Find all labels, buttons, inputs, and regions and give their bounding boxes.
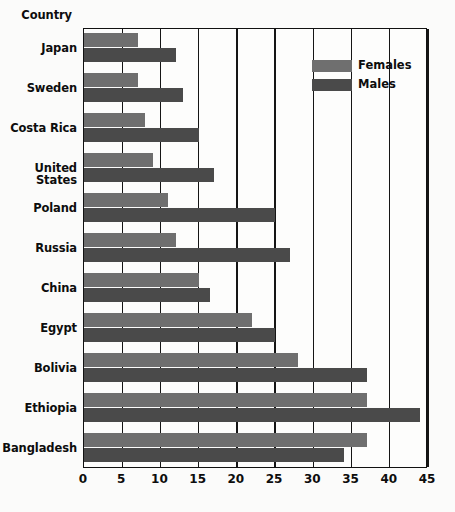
y-axis-title: Country <box>0 8 72 22</box>
bar-group <box>84 109 426 149</box>
chart-legend: FemalesMales <box>312 58 432 96</box>
x-axis-tick-labels: 051015202530354045 <box>0 472 455 496</box>
chart-figure: Country JapanSwedenCosta RicaUnited Stat… <box>0 0 455 512</box>
bar-group <box>84 389 426 429</box>
bar-females <box>84 353 298 367</box>
bar-males <box>84 328 275 342</box>
bar-group <box>84 269 426 309</box>
x-tick-label-30: 30 <box>304 472 321 486</box>
legend-label-females: Females <box>358 58 412 73</box>
bar-females <box>84 153 153 167</box>
y-tick-label-japan: Japan <box>0 42 77 54</box>
y-tick-label-poland: Poland <box>0 202 77 214</box>
bar-males <box>84 448 344 462</box>
x-tick-label-45: 45 <box>419 472 436 486</box>
legend-swatch-males <box>312 79 352 91</box>
x-tick-label-15: 15 <box>189 472 206 486</box>
bar-group <box>84 149 426 189</box>
bar-females <box>84 113 145 127</box>
x-tick-label-35: 35 <box>342 472 359 486</box>
y-tick-label-costa-rica: Costa Rica <box>0 122 77 134</box>
legend-item: Females <box>312 58 432 75</box>
y-axis-tick-labels: JapanSwedenCosta RicaUnited StatesPoland… <box>0 28 77 468</box>
x-tick-label-25: 25 <box>266 472 283 486</box>
y-tick-label-egypt: Egypt <box>0 322 77 334</box>
x-tick-label-0: 0 <box>79 472 87 486</box>
y-tick-label-ethiopia: Ethiopia <box>0 402 77 414</box>
bar-females <box>84 33 138 47</box>
bar-females <box>84 193 168 207</box>
bar-females <box>84 433 367 447</box>
x-tick-label-10: 10 <box>151 472 168 486</box>
x-tick-label-5: 5 <box>117 472 125 486</box>
bar-males <box>84 168 214 182</box>
x-tick-label-40: 40 <box>380 472 397 486</box>
bar-males <box>84 128 199 142</box>
bar-males <box>84 248 290 262</box>
x-tick-label-20: 20 <box>228 472 245 486</box>
bar-females <box>84 73 138 87</box>
bar-females <box>84 233 176 247</box>
bar-females <box>84 393 367 407</box>
legend-item: Males <box>312 77 432 94</box>
bar-females <box>84 273 199 287</box>
y-tick-label-russia: Russia <box>0 242 77 254</box>
y-tick-label-bangladesh: Bangladesh <box>0 442 77 454</box>
y-tick-label-bolivia: Bolivia <box>0 362 77 374</box>
bar-males <box>84 288 210 302</box>
bar-males <box>84 368 367 382</box>
y-tick-label-sweden: Sweden <box>0 82 77 94</box>
bar-group <box>84 309 426 349</box>
bar-group <box>84 349 426 389</box>
y-tick-label-china: China <box>0 282 77 294</box>
bar-group <box>84 429 426 469</box>
bar-group <box>84 229 426 269</box>
bar-females <box>84 313 252 327</box>
legend-label-males: Males <box>358 77 396 92</box>
legend-swatch-females <box>312 60 352 72</box>
bar-males <box>84 208 275 222</box>
y-tick-label-united-states: United States <box>0 162 77 186</box>
bar-group <box>84 189 426 229</box>
bar-males <box>84 48 176 62</box>
bar-males <box>84 88 183 102</box>
bar-males <box>84 408 420 422</box>
